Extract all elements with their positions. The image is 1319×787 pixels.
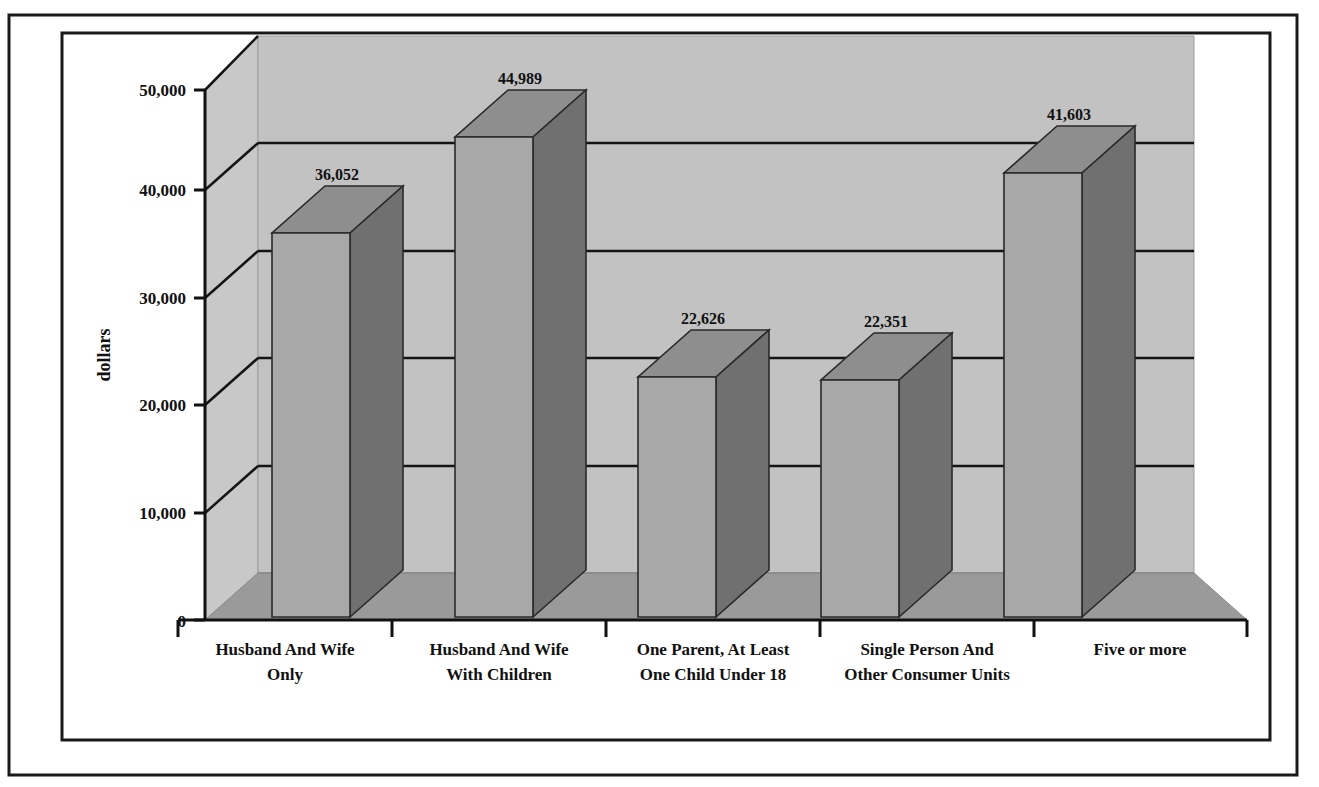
bar-3-front-face xyxy=(638,377,716,617)
bar-group-3 xyxy=(638,330,769,617)
bar-4-side-face xyxy=(899,333,952,617)
bar-2-front-face xyxy=(455,137,533,617)
y-tick-label-0: 0 xyxy=(178,612,187,631)
category-label-5: Five or more xyxy=(1094,640,1187,659)
y-tick-label-40000: 40,000 xyxy=(139,181,186,200)
plot-left-wall xyxy=(205,36,258,620)
bar-group-4 xyxy=(821,333,952,617)
bar-3-side-face xyxy=(716,330,769,617)
bar-chart-3d: 50,000 40,000 30,000 20,000 10,000 0 dol… xyxy=(0,0,1319,787)
y-tick-label-20000: 20,000 xyxy=(139,396,186,415)
value-label-5: 41,603 xyxy=(1047,106,1091,123)
bar-group-2 xyxy=(455,90,586,617)
bar-group-5 xyxy=(1004,126,1135,617)
category-label-1-line-1: Husband And Wife xyxy=(215,640,355,659)
category-label-5-line-1: Five or more xyxy=(1094,640,1187,659)
bar-5-side-face xyxy=(1082,126,1135,617)
plot-area-3d xyxy=(205,36,1247,620)
bar-5-front-face xyxy=(1004,173,1082,617)
bar-2-side-face xyxy=(533,90,586,617)
y-tick-label-10000: 10,000 xyxy=(139,504,186,523)
bar-4-front-face xyxy=(821,380,899,617)
bar-group-1 xyxy=(272,186,403,617)
value-label-2: 44,989 xyxy=(498,70,542,87)
figure-root: 50,000 40,000 30,000 20,000 10,000 0 dol… xyxy=(0,0,1319,787)
category-label-3-line-1: One Parent, At Least xyxy=(637,640,790,659)
category-label-2-line-2: With Children xyxy=(446,665,552,684)
value-label-1: 36,052 xyxy=(315,166,359,183)
y-axis-title: dollars xyxy=(94,328,114,381)
category-label-3-line-2: One Child Under 18 xyxy=(640,665,787,684)
category-label-4-line-1: Single Person And xyxy=(860,640,994,659)
category-label-1-line-2: Only xyxy=(267,665,303,684)
y-tick-label-30000: 30,000 xyxy=(139,289,186,308)
bar-1-front-face xyxy=(272,233,350,617)
category-label-2-line-1: Husband And Wife xyxy=(429,640,569,659)
y-tick-label-50000: 50,000 xyxy=(139,81,186,100)
category-label-4-line-2: Other Consumer Units xyxy=(844,665,1010,684)
bar-1-side-face xyxy=(350,186,403,617)
value-label-4: 22,351 xyxy=(864,313,908,330)
value-label-3: 22,626 xyxy=(681,310,725,327)
